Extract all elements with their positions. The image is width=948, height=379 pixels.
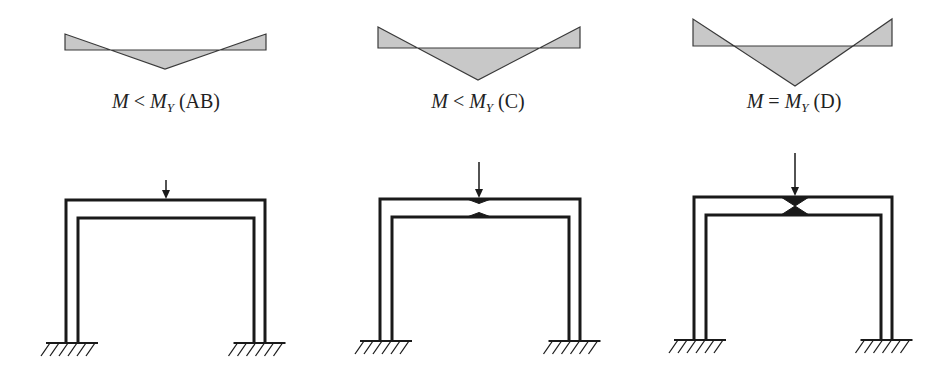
moment-condition-label: M < MY (C) bbox=[431, 90, 525, 116]
moment-diagram-left-hogging bbox=[65, 34, 111, 50]
ground-hatch bbox=[705, 340, 714, 353]
moment-diagram-right-hogging bbox=[220, 34, 266, 50]
yield-zone-top bbox=[781, 197, 809, 206]
ground-hatch bbox=[696, 340, 705, 353]
case-id: (AB) bbox=[179, 90, 220, 112]
moment-diagram-right-hogging bbox=[540, 27, 580, 48]
case-id: (C) bbox=[498, 90, 525, 112]
ground-hatch bbox=[589, 341, 598, 354]
moment-diagram-sagging bbox=[111, 50, 220, 69]
ground-hatch bbox=[265, 343, 274, 356]
ground-hatch bbox=[562, 341, 571, 354]
ground-hatch bbox=[883, 340, 892, 353]
frame-outer-edge bbox=[694, 197, 892, 340]
moment-condition-label: M = MY (D) bbox=[747, 90, 842, 116]
frame-outer-edge bbox=[66, 200, 265, 343]
ground-hatch bbox=[68, 343, 77, 356]
frame-inner-edge bbox=[706, 215, 881, 340]
ground-hatch bbox=[892, 340, 901, 353]
ground-hatch bbox=[901, 340, 910, 353]
ground-hatch bbox=[874, 340, 883, 353]
ground-hatch bbox=[544, 341, 553, 354]
moment-diagram-sagging bbox=[734, 46, 853, 86]
ground-hatch bbox=[714, 340, 723, 353]
ground-hatch bbox=[865, 340, 874, 353]
ground-hatch bbox=[256, 343, 265, 356]
relation-symbol: < bbox=[134, 90, 145, 112]
yield-moment-symbol: M bbox=[785, 90, 802, 112]
frame-inner-edge bbox=[392, 217, 569, 341]
diagram-canvas bbox=[0, 0, 948, 379]
ground-hatch bbox=[553, 341, 562, 354]
yield-zone-bottom bbox=[467, 213, 491, 218]
yield-subscript: Y bbox=[167, 100, 174, 115]
yield-subscript: Y bbox=[801, 100, 808, 115]
yield-moment-symbol: M bbox=[469, 90, 486, 112]
ground-hatch bbox=[41, 343, 50, 356]
moment-diagram-left-hogging bbox=[378, 27, 418, 48]
ground-hatch bbox=[86, 343, 95, 356]
ground-hatch bbox=[229, 343, 238, 356]
frame-inner-edge bbox=[78, 218, 254, 343]
moment-diagram-left-hogging bbox=[693, 19, 734, 46]
ground-hatch bbox=[678, 340, 687, 353]
load-arrow-head bbox=[162, 190, 170, 199]
ground-hatch bbox=[364, 341, 373, 354]
relation-symbol: < bbox=[453, 90, 464, 112]
ground-hatch bbox=[400, 341, 409, 354]
ground-hatch bbox=[391, 341, 400, 354]
ground-hatch bbox=[77, 343, 86, 356]
ground-hatch bbox=[373, 341, 382, 354]
ground-hatch bbox=[59, 343, 68, 356]
moment-diagram-right-hogging bbox=[853, 19, 892, 46]
ground-hatch bbox=[669, 340, 678, 353]
load-arrow-head bbox=[791, 187, 799, 196]
moment-symbol: M bbox=[747, 90, 764, 112]
load-arrow-head bbox=[475, 189, 483, 198]
moment-symbol: M bbox=[431, 90, 448, 112]
ground-hatch bbox=[856, 340, 865, 353]
ground-hatch bbox=[580, 341, 589, 354]
ground-hatch bbox=[355, 341, 364, 354]
ground-hatch bbox=[50, 343, 59, 356]
case-id: (D) bbox=[814, 90, 842, 112]
ground-hatch bbox=[571, 341, 580, 354]
yield-subscript: Y bbox=[486, 100, 493, 115]
ground-hatch bbox=[274, 343, 283, 356]
moment-symbol: M bbox=[112, 90, 129, 112]
frame-outer-edge bbox=[380, 199, 580, 341]
relation-symbol: = bbox=[768, 90, 779, 112]
yield-zone-top bbox=[467, 199, 491, 204]
moment-diagram-sagging bbox=[418, 48, 540, 80]
ground-hatch bbox=[687, 340, 696, 353]
ground-hatch bbox=[382, 341, 391, 354]
yield-moment-symbol: M bbox=[150, 90, 167, 112]
ground-hatch bbox=[247, 343, 256, 356]
moment-condition-label: M < MY (AB) bbox=[112, 90, 220, 116]
ground-hatch bbox=[238, 343, 247, 356]
yield-zone-bottom bbox=[781, 206, 809, 215]
